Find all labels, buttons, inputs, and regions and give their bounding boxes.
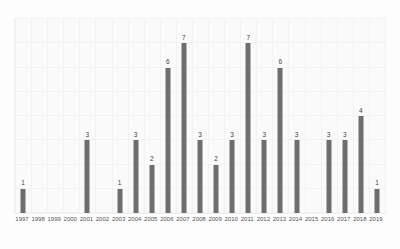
bar-value-label: 1: [21, 180, 25, 187]
bar-slot: 3: [256, 19, 272, 213]
bar-slot: [47, 19, 63, 213]
bar[interactable]: [262, 140, 267, 213]
x-tick-label: 1999: [46, 216, 62, 222]
x-tick-label: 2009: [207, 216, 223, 222]
x-tick-label: 2003: [111, 216, 127, 222]
bar-value-label: 3: [343, 132, 347, 139]
bar[interactable]: [197, 140, 202, 213]
bar[interactable]: [214, 165, 219, 214]
bar-value-label: 1: [375, 180, 379, 187]
bar-value-label: 7: [246, 35, 250, 42]
x-tick-label: 2002: [94, 216, 110, 222]
x-tick-label: 2010: [223, 216, 239, 222]
bar-value-label: 3: [295, 132, 299, 139]
x-tick-label: 2012: [255, 216, 271, 222]
bar[interactable]: [149, 165, 154, 214]
bar-value-label: 3: [230, 132, 234, 139]
bar-slot: [63, 19, 79, 213]
x-tick-label: 1997: [14, 216, 30, 222]
bar-slot: 6: [160, 19, 176, 213]
bar-value-label: 6: [279, 59, 283, 66]
bar-slot: 3: [192, 19, 208, 213]
bar-slot: 2: [144, 19, 160, 213]
bar-slot: [31, 19, 47, 213]
x-tick-label: 2018: [352, 216, 368, 222]
x-tick-label: 2011: [239, 216, 255, 222]
x-axis-tick-labels: 1997199819992000200120022003200420052006…: [14, 216, 386, 230]
bar[interactable]: [133, 140, 138, 213]
bar[interactable]: [342, 140, 347, 213]
x-tick-label: 2008: [191, 216, 207, 222]
plot-area: 131326732373633341: [14, 18, 386, 214]
bar-value-label: 1: [118, 180, 122, 187]
bar-slot: 3: [337, 19, 353, 213]
bar-value-label: 3: [327, 132, 331, 139]
bar-slot: 2: [208, 19, 224, 213]
x-tick-label: 2017: [336, 216, 352, 222]
x-tick-label: 2015: [304, 216, 320, 222]
bar[interactable]: [374, 189, 379, 213]
bar-slot: 3: [79, 19, 95, 213]
bar-slot: 3: [321, 19, 337, 213]
bar-value-label: 3: [134, 132, 138, 139]
bar-slot: [305, 19, 321, 213]
bar-slot: 3: [128, 19, 144, 213]
x-tick-label: 2001: [78, 216, 94, 222]
bar-slot: 4: [353, 19, 369, 213]
bar[interactable]: [181, 43, 186, 213]
x-tick-label: 2006: [159, 216, 175, 222]
bar-slot: 3: [288, 19, 304, 213]
bar[interactable]: [358, 116, 363, 213]
bar-value-label: 3: [198, 132, 202, 139]
bar[interactable]: [117, 189, 122, 213]
bar-slot: 1: [369, 19, 385, 213]
bar-slot: 7: [176, 19, 192, 213]
x-tick-label: 2005: [143, 216, 159, 222]
bar[interactable]: [326, 140, 331, 213]
bar[interactable]: [21, 189, 26, 213]
bar[interactable]: [278, 68, 283, 214]
x-tick-label: 2013: [271, 216, 287, 222]
x-tick-label: 2016: [320, 216, 336, 222]
bar[interactable]: [230, 140, 235, 213]
x-tick-label: 2007: [175, 216, 191, 222]
x-tick-label: 2014: [287, 216, 303, 222]
bar[interactable]: [246, 43, 251, 213]
bar-value-label: 2: [214, 156, 218, 163]
bar[interactable]: [165, 68, 170, 214]
bar-slot: 3: [224, 19, 240, 213]
x-tick-label: 2019: [368, 216, 384, 222]
bar-value-label: 3: [263, 132, 267, 139]
bar-slot: 1: [112, 19, 128, 213]
bar-slot: [95, 19, 111, 213]
gridline-vertical: [385, 19, 386, 213]
bar[interactable]: [85, 140, 90, 213]
bar-value-label: 7: [182, 35, 186, 42]
bar-value-label: 4: [359, 108, 363, 115]
bar-chart-figure: 131326732373633341 199719981999200020012…: [0, 0, 400, 249]
x-tick-label: 2000: [62, 216, 78, 222]
bar-slot: 7: [240, 19, 256, 213]
bar-value-label: 2: [150, 156, 154, 163]
bar-value-label: 3: [86, 132, 90, 139]
x-tick-label: 2004: [127, 216, 143, 222]
bar[interactable]: [294, 140, 299, 213]
bar-slot: 6: [272, 19, 288, 213]
bar-value-label: 6: [166, 59, 170, 66]
x-tick-label: 1998: [30, 216, 46, 222]
bars-layer: 131326732373633341: [15, 19, 385, 213]
bar-slot: 1: [15, 19, 31, 213]
